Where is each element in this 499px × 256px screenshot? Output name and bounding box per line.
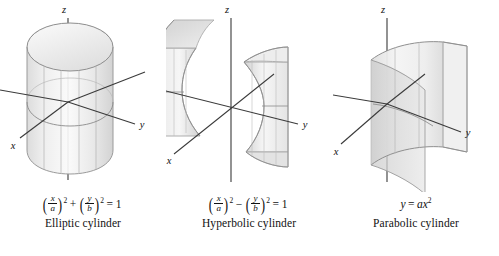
fraction-x-over-a: x a bbox=[214, 194, 223, 213]
fraction-denominator-b: b bbox=[85, 203, 94, 213]
z-axis-label: z bbox=[61, 4, 66, 15]
fraction-y-over-b: y b bbox=[85, 194, 94, 213]
equation-operator: − bbox=[236, 198, 243, 210]
x-axis-label: x bbox=[333, 146, 339, 157]
y-axis-label: y bbox=[465, 127, 471, 138]
y-axis-label: y bbox=[139, 119, 145, 130]
equation-equals: = 1 bbox=[106, 198, 121, 210]
hyperbolic-right-sheet bbox=[244, 62, 288, 152]
fraction-denominator-a: a bbox=[214, 203, 223, 213]
elliptic-caption-block: ( x a ) 2 + ( y b ) 2 = 1 Elliptic cylin… bbox=[0, 192, 166, 229]
equation-lhs: y bbox=[400, 198, 405, 210]
fraction-numerator-x: x bbox=[215, 194, 223, 203]
hyperbolic-left-top-flap bbox=[166, 20, 214, 48]
x-axis-label: x bbox=[10, 140, 16, 151]
parabolic-cylinder-caption: Parabolic cylinder bbox=[333, 217, 499, 229]
hyperbolic-cylinder-svg: z x y bbox=[166, 2, 332, 192]
parabolic-caption-block: y = a x 2 Parabolic cylinder bbox=[333, 192, 499, 229]
fraction-denominator-b: b bbox=[251, 203, 260, 213]
y-axis-label: y bbox=[302, 119, 308, 130]
elliptic-equation: ( x a ) 2 + ( y b ) 2 = 1 bbox=[0, 192, 166, 216]
fraction-numerator-y: y bbox=[85, 194, 93, 203]
elliptic-cylinder-svg: z x y bbox=[0, 2, 166, 192]
cylinder-top-ellipse bbox=[27, 23, 113, 71]
hyperbolic-cylinder-caption: Hyperbolic cylinder bbox=[166, 217, 332, 229]
hyperbolic-caption-block: ( x a ) 2 − ( y b ) 2 = 1 Hyperbolic cyl… bbox=[166, 192, 332, 229]
z-axis-label: z bbox=[380, 4, 385, 15]
x-axis-label: x bbox=[166, 155, 172, 166]
equation-equals: = 1 bbox=[272, 198, 287, 210]
parabolic-cylinder-svg: z x y bbox=[333, 2, 499, 192]
elliptic-cylinder-illustration: z x y bbox=[0, 2, 166, 192]
parabolic-cylinder-illustration: z x y bbox=[333, 2, 499, 192]
fraction-numerator-y: y bbox=[251, 194, 259, 203]
fraction-y-over-b: y b bbox=[251, 194, 260, 213]
elliptic-cylinder-caption: Elliptic cylinder bbox=[0, 217, 166, 229]
fraction-x-over-a: x a bbox=[48, 194, 57, 213]
parabolic-equation: y = a x 2 bbox=[333, 192, 499, 216]
equation-equals: = bbox=[408, 198, 415, 210]
parabolic-right-wing bbox=[443, 42, 467, 152]
equation-operator: + bbox=[70, 198, 77, 210]
cylinder-figure: z x y ( x a ) 2 + ( y b ) 2 bbox=[0, 0, 499, 256]
hyperbolic-right-bottom-flap bbox=[246, 152, 288, 167]
hyperbolic-right-top-arc bbox=[244, 47, 288, 62]
fraction-numerator-x: x bbox=[49, 194, 57, 203]
hyperbolic-cylinder-illustration: z x y bbox=[166, 2, 332, 192]
panel-parabolic-cylinder: z x y y = a x 2 Parabolic cylinder bbox=[333, 0, 499, 256]
hyperbolic-equation: ( x a ) 2 − ( y b ) 2 = 1 bbox=[166, 192, 332, 216]
panel-elliptic-cylinder: z x y ( x a ) 2 + ( y b ) 2 bbox=[0, 0, 166, 256]
z-axis-label: z bbox=[224, 4, 229, 15]
fraction-denominator-a: a bbox=[48, 203, 57, 213]
panel-hyperbolic-cylinder: z x y ( x a ) 2 − ( y b ) 2 bbox=[166, 0, 332, 256]
